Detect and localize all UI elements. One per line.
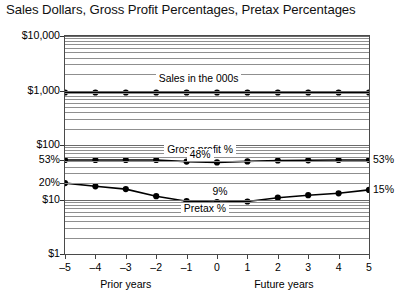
y-axis-tick <box>60 145 64 146</box>
gridline <box>65 157 369 158</box>
gridline <box>65 238 369 239</box>
x-axis-tick <box>126 255 127 259</box>
series-annotation: 9% <box>210 186 231 198</box>
x-axis-tick <box>156 255 157 259</box>
series-end-label: 53% <box>371 153 394 165</box>
chart-title: Sales Dollars, Gross Profit Percentages,… <box>6 2 406 17</box>
gridline <box>65 216 369 217</box>
gridline <box>65 99 369 100</box>
x-axis-tick <box>95 255 96 259</box>
x-axis-tick-label: 5 <box>354 261 384 273</box>
gridline <box>65 161 369 162</box>
x-axis-tick-label: 0 <box>202 261 232 273</box>
gridline <box>65 167 369 168</box>
y-axis-tick-label: 20% <box>0 176 60 188</box>
gridline <box>65 228 369 229</box>
gridline <box>65 103 369 104</box>
x-axis-tick <box>217 255 218 259</box>
chart-container: Sales Dollars, Gross Profit Percentages,… <box>0 0 409 294</box>
data-point-marker <box>153 193 159 199</box>
gridline <box>65 58 369 59</box>
gridline <box>65 107 369 108</box>
series-end-label: 15% <box>371 183 394 195</box>
gridline <box>65 38 369 39</box>
data-point-marker <box>123 186 129 192</box>
x-axis-tick <box>369 255 370 259</box>
gridline <box>65 52 369 53</box>
y-axis-tick <box>60 254 64 255</box>
x-axis-tick-label: –1 <box>172 261 202 273</box>
gridline <box>65 200 369 201</box>
data-point-marker <box>305 192 311 198</box>
x-axis-tick-label: –4 <box>80 261 110 273</box>
x-axis-group-label: Future years <box>244 278 324 290</box>
gridline <box>65 93 369 94</box>
y-axis-tick <box>60 91 64 92</box>
data-point-marker <box>366 187 369 193</box>
x-axis-tick-label: –5 <box>50 261 80 273</box>
gridline <box>65 36 369 37</box>
x-axis-tick-label: 1 <box>232 261 262 273</box>
gridline <box>65 119 369 120</box>
y-axis-tick-label: $1,000 <box>0 84 60 96</box>
x-axis-tick-label: 3 <box>293 261 323 273</box>
y-axis-tick-label: $10,000 <box>0 29 60 41</box>
x-axis-tick <box>187 255 188 259</box>
y-axis-tick <box>60 160 64 161</box>
x-axis-tick-label: –2 <box>141 261 171 273</box>
y-axis-tick-label: $100 <box>0 138 60 150</box>
x-axis-group-label: Prior years <box>86 278 166 290</box>
x-axis-tick <box>308 255 309 259</box>
x-axis-tick <box>247 255 248 259</box>
gridline <box>65 221 369 222</box>
x-axis-tick-label: 4 <box>324 261 354 273</box>
data-point-marker <box>336 190 342 196</box>
gridline <box>65 91 369 92</box>
y-axis-tick <box>60 183 64 184</box>
x-axis-tick-label: –3 <box>111 261 141 273</box>
x-axis-tick <box>339 255 340 259</box>
y-axis-tick <box>60 200 64 201</box>
x-axis-tick <box>65 255 66 259</box>
gridline <box>65 129 369 130</box>
y-axis-tick-label: 53% <box>0 153 60 165</box>
y-axis-tick-label: $1 <box>0 247 60 259</box>
data-point-marker <box>92 183 98 189</box>
gridline <box>65 48 369 49</box>
gridline <box>65 112 369 113</box>
y-axis-tick-label: $10 <box>0 193 60 205</box>
gridline <box>65 173 369 174</box>
series-annotation: 48% <box>187 149 214 161</box>
series-annotation: Pretax % <box>181 203 229 215</box>
series-annotation: Sales in the 000s <box>156 73 242 85</box>
gridline <box>65 41 369 42</box>
x-axis-tick <box>278 255 279 259</box>
gridline <box>65 183 369 184</box>
gridline <box>65 96 369 97</box>
y-axis-tick <box>60 36 64 37</box>
gridline <box>65 64 369 65</box>
x-axis-tick-label: 2 <box>263 261 293 273</box>
gridline <box>65 44 369 45</box>
